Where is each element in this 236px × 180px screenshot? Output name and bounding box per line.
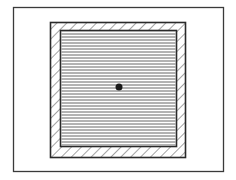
center-dot <box>116 84 123 91</box>
diagram-canvas <box>0 0 236 180</box>
